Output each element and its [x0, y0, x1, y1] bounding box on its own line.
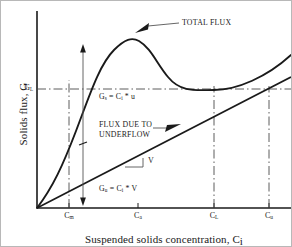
- flux-difference-arrow-head-down: [80, 198, 86, 207]
- total-flux-leader-line: [148, 23, 179, 26]
- x-axis-title-subscript: i: [240, 235, 243, 247]
- y-axis-title-container: Solids flux, G: [13, 49, 31, 179]
- x-tick-label-cu: Cu: [258, 211, 280, 220]
- x-axis-title: Suspended solids concentration, C: [85, 233, 240, 245]
- flux-difference-arrow-head-up: [80, 44, 86, 53]
- settling-flux-equation: Gs = Ci * u: [99, 92, 135, 101]
- x-tick-label-cm: Cm: [58, 211, 80, 220]
- x-tick-label-cl: CL: [203, 211, 225, 220]
- total-flux-curve: [37, 39, 291, 208]
- total-flux-label: TOTAL FLUX: [182, 18, 231, 27]
- y-tick-label-gl-subscript: L: [30, 86, 33, 92]
- settling-flux-eq-rhs-pre: = C: [107, 92, 121, 101]
- x-tick-label-ca-subscript: a: [139, 214, 141, 220]
- solids-flux-figure: Solids flux, G GL Cm Ca CL Cu Suspended …: [0, 0, 292, 247]
- underflow-flux-equation: Gu = Ci * V: [99, 184, 137, 193]
- underflow-flux-label-line2: UNDERFLOW: [99, 130, 150, 139]
- underflow-flux-eq-rhs-post: * V: [123, 184, 137, 193]
- settling-flux-eq-rhs-post: * u: [123, 92, 136, 101]
- underflow-flux-eq-rhs-pre: = C: [108, 184, 122, 193]
- x-axis-title-container: Suspended solids concentration, Ci: [37, 229, 291, 247]
- total-flux-leader-arrowhead: [135, 23, 149, 33]
- y-tick-label-gl: GL: [15, 83, 33, 92]
- underflow-leader-arrowhead: [165, 124, 181, 132]
- underflow-flux-line: [37, 77, 291, 208]
- x-tick-label-cu-subscript: u: [270, 214, 273, 220]
- x-tick-label-ca: Ca: [127, 211, 149, 220]
- x-tick-label-cl-subscript: L: [215, 214, 218, 220]
- underflow-flux-label-line1: FLUX DUE TO: [99, 120, 152, 129]
- x-tick-label-cm-subscript: m: [70, 214, 74, 220]
- slope-label-v: V: [148, 156, 154, 165]
